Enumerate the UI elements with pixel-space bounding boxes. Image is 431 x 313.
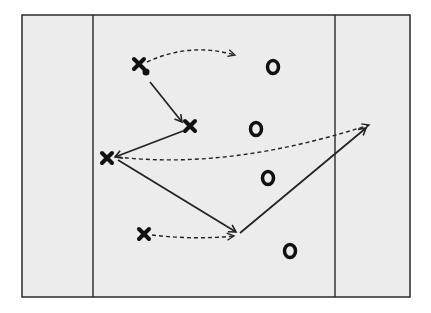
field [22,15,410,297]
ball [143,69,150,76]
field-boundary [22,15,410,297]
play-diagram [0,0,431,313]
ball-icon [143,69,150,76]
